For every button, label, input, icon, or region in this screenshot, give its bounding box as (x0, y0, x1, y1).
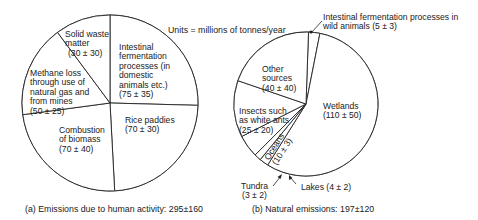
label-line: (30 ± 30) (65, 49, 109, 58)
label-line: (50 ± 25) (30, 107, 89, 116)
label-line: wild animals (5 ± 3) (323, 22, 458, 31)
units-note: Units = millions of tonnes/year (168, 25, 286, 35)
arrow-wild-animals (311, 21, 322, 33)
label-line: (110 ± 50) (323, 111, 361, 120)
slice-label-other-sources: Other sources (40 ± 40) (262, 65, 296, 93)
slice-label-wetlands: Wetlands (110 ± 50) (323, 102, 361, 121)
slice-label-lakes: Lakes (4 ± 2) (301, 183, 351, 192)
slice-label-insects: Insects such as white ants (25 ± 20) (239, 107, 289, 135)
slice-label-solid-waste: Solid waste matter (30 ± 30) (65, 30, 109, 58)
label-line: (70 ± 40) (59, 145, 105, 154)
caption-human-emissions: (a) Emissions due to human activity: 295… (25, 204, 203, 214)
label-line: (40 ± 40) (262, 84, 296, 93)
label-line: (75 ± 35) (119, 90, 170, 99)
label-line: (70 ± 30) (125, 125, 175, 134)
label-line: (3 ± 2) (241, 191, 268, 200)
slice-label-methane-loss: Methane loss through use of natural gas … (30, 69, 89, 116)
slice-label-combustion: Combustion of biomass (70 ± 40) (59, 126, 105, 154)
slice-label-intestinal-domestic: Intestinal fermentation processes (in do… (119, 43, 170, 99)
slice-label-wild-animals: Intestinal fermentation processes in wil… (323, 13, 458, 32)
label-line: Lakes (4 ± 2) (301, 183, 351, 192)
slice-label-tundra: Tundra (3 ± 2) (241, 182, 268, 201)
arrow-wild-animals-head (309, 30, 312, 33)
slice-label-rice-paddies: Rice paddies (70 ± 30) (125, 116, 175, 135)
caption-natural-emissions: (b) Natural emissions: 197±120 (252, 204, 374, 214)
label-line: (25 ± 20) (239, 126, 289, 135)
arrow-tundra-head (278, 174, 283, 179)
